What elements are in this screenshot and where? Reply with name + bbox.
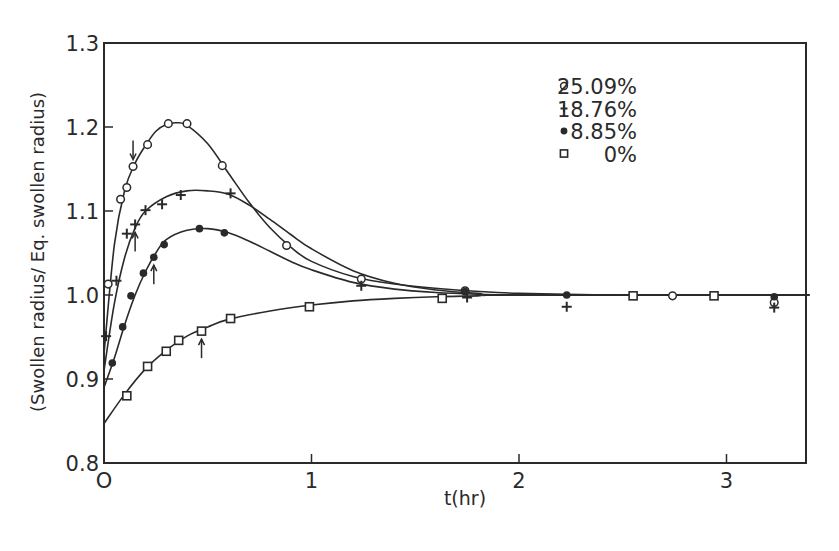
open-circle-marker <box>165 120 173 128</box>
plus-marker <box>356 281 366 291</box>
plot-border <box>104 43 806 463</box>
filled-circle-marker <box>140 269 148 277</box>
filled-circle-marker <box>563 291 571 299</box>
chart: 0.80.91.01.11.21.3 O123 25.09%18.76%8.85… <box>0 0 839 551</box>
filled-circle-marker <box>109 359 117 367</box>
y-tick-label: 1.1 <box>66 200 99 224</box>
arrow-down-icon <box>130 140 136 159</box>
filled-circle-marker <box>150 253 158 261</box>
open-square-marker <box>175 336 183 344</box>
y-tick-label: 1.2 <box>66 116 99 140</box>
filled-circle-marker <box>119 323 127 331</box>
legend-label: 25.09% <box>557 75 637 99</box>
open-circle-marker <box>123 184 131 192</box>
plot-frame <box>104 43 806 463</box>
open-square-marker <box>438 294 446 302</box>
open-square-marker <box>560 150 567 157</box>
fitted-curves <box>104 123 810 424</box>
filled-circle-marker <box>196 225 204 233</box>
open-circle-marker <box>129 163 137 171</box>
filled-circle-marker <box>561 128 568 135</box>
open-circle-marker <box>104 280 112 288</box>
open-square-marker <box>123 392 131 400</box>
y-tick-label: 0.9 <box>66 368 99 392</box>
plus-marker <box>562 302 572 312</box>
curve-885 <box>104 228 810 387</box>
filled-circle-marker <box>221 229 229 237</box>
open-circle-marker <box>283 242 291 250</box>
filled-circle-marker <box>160 241 168 249</box>
open-square-marker <box>629 292 637 300</box>
plus-marker <box>122 229 132 239</box>
open-square-marker <box>144 362 152 370</box>
open-circle-marker <box>144 141 152 149</box>
arrow-up-icon <box>199 339 205 358</box>
legend-label: 8.85% <box>570 120 637 144</box>
x-axis-ticks: O123 <box>96 454 733 493</box>
open-square-marker <box>162 347 170 355</box>
y-tick-label: 0.8 <box>66 452 99 476</box>
y-axis-ticks: 0.80.91.01.11.21.3 <box>66 32 113 476</box>
x-tick-label: O <box>96 469 113 493</box>
open-square-marker <box>198 327 206 335</box>
open-square-marker <box>305 303 313 311</box>
x-tick-label: 2 <box>512 469 525 493</box>
open-square-marker <box>227 315 235 323</box>
open-circle-marker <box>669 292 677 300</box>
filled-circle-marker <box>461 288 469 296</box>
arrow-up-icon <box>151 265 157 284</box>
legend: 25.09%18.76%8.85%0% <box>557 75 637 167</box>
data-markers <box>101 120 779 400</box>
curve-1876 <box>104 190 810 370</box>
y-tick-label: 1.0 <box>66 284 99 308</box>
open-circle-marker <box>183 120 191 128</box>
x-tick-label: 1 <box>305 469 318 493</box>
curve-2509 <box>104 123 810 354</box>
curve-0 <box>104 295 810 424</box>
legend-label: 18.76% <box>557 98 637 122</box>
x-tick-label: 3 <box>720 469 733 493</box>
x-axis-label: t(hr) <box>444 487 486 509</box>
legend-label: 0% <box>604 143 637 167</box>
y-tick-label: 1.3 <box>66 32 99 56</box>
open-circle-marker <box>218 162 226 170</box>
plus-marker <box>141 205 151 215</box>
arrow-up-icon <box>132 232 138 251</box>
open-circle-marker <box>117 195 125 203</box>
filled-circle-marker <box>127 292 135 300</box>
y-axis-label: (Swollen radius/ Eq. swollen radius) <box>27 92 48 412</box>
annotation-arrows <box>130 140 204 358</box>
filled-circle-marker <box>770 293 778 301</box>
open-square-marker <box>710 292 718 300</box>
